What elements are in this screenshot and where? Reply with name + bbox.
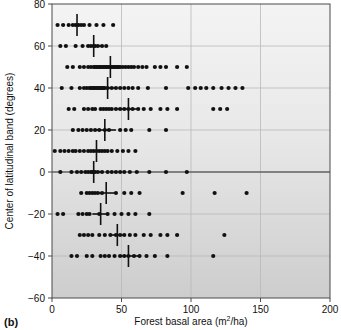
data-point [85,254,89,258]
y-tick-label--60: −60 [28,293,45,304]
y-tick-label--40: −40 [28,251,45,262]
data-point [96,44,100,48]
data-point [93,128,97,132]
data-point [126,254,130,258]
data-point [79,191,83,195]
data-point [158,233,162,237]
data-point [213,191,217,195]
data-point [126,86,130,90]
data-point [61,23,65,27]
data-point [110,149,114,153]
data-point [211,254,215,258]
data-point [75,254,79,258]
data-point [112,254,116,258]
data-point [185,170,189,174]
data-point [218,107,222,111]
data-point [136,86,140,90]
data-point [164,128,168,132]
data-point [126,107,130,111]
data-point [76,128,80,132]
data-point [186,86,190,90]
x-tick-label-100: 100 [183,304,200,315]
data-point [53,149,57,153]
data-point [64,44,68,48]
y-tick-label--20: −20 [28,209,45,220]
data-point [112,212,116,216]
data-point [87,23,91,27]
data-point [211,107,215,111]
data-point [78,233,82,237]
data-point [76,212,80,216]
data-point [126,212,130,216]
data-point [219,86,223,90]
data-point [97,233,101,237]
data-point [118,170,122,174]
data-point [78,86,82,90]
figure-panel-b: 050100150200 −60−40−20020406080 Forest b… [0,0,341,330]
data-point [121,149,125,153]
data-point [124,128,128,132]
data-point [115,149,119,153]
data-point [97,212,101,216]
data-point [67,149,71,153]
y-tick-labels: −60−40−20020406080 [28,0,45,304]
data-point [75,170,79,174]
data-point [118,233,122,237]
y-tick-label-40: 40 [34,83,46,94]
data-point [107,254,111,258]
data-point [122,191,126,195]
data-point [60,86,64,90]
data-point [61,212,65,216]
data-point [97,128,101,132]
data-point [158,65,162,69]
data-point [106,170,110,174]
data-point [90,254,94,258]
data-point [67,107,71,111]
data-point [185,65,189,69]
data-point [140,65,144,69]
data-point [96,191,100,195]
data-point [110,86,114,90]
data-point [137,191,141,195]
data-point [103,128,107,132]
data-point [153,254,157,258]
data-point [82,65,86,69]
data-point [90,233,94,237]
data-point [122,107,126,111]
data-point [82,23,86,27]
data-point [225,107,229,111]
data-point [82,233,86,237]
data-point [132,254,136,258]
data-point [118,254,122,258]
data-point [118,107,122,111]
data-point [58,170,62,174]
data-point [78,149,82,153]
y-axis-ticks [48,4,52,298]
data-point [106,86,110,90]
data-point [199,86,203,90]
data-point [137,254,141,258]
data-point [94,23,98,27]
data-point [233,86,237,90]
data-point [93,107,97,111]
x-tick-label-200: 200 [322,304,339,315]
data-point [99,254,103,258]
data-point [240,86,244,90]
data-point [118,128,122,132]
data-point [222,233,226,237]
data-point [101,23,105,27]
data-point [122,86,126,90]
data-point [164,170,168,174]
data-point [129,191,133,195]
data-point [131,107,135,111]
data-point [58,44,62,48]
data-point [122,254,126,258]
data-point [122,170,126,174]
data-point [82,149,86,153]
data-point [136,107,140,111]
data-point [129,128,133,132]
data-point [144,65,148,69]
x-tick-label-50: 50 [116,304,128,315]
data-point [78,65,82,69]
data-point [106,212,110,216]
